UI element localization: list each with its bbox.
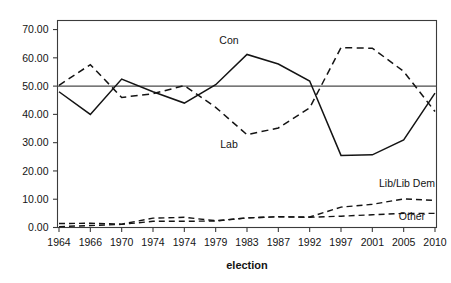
x-tick-label: 1974 (141, 236, 165, 248)
x-tick-label: 1997 (329, 236, 353, 248)
x-tick-label: 1979 (204, 236, 228, 248)
x-tick-label: 2005 (392, 236, 416, 248)
series-label-lab: Lab (220, 138, 238, 150)
y-tick-label: 10.00 (22, 193, 48, 205)
y-tick-label: 70.00 (22, 23, 48, 35)
x-tick-label: 1970 (110, 236, 134, 248)
x-tick-label: 1992 (298, 236, 322, 248)
x-tick-label: 2001 (361, 236, 385, 248)
x-tick-label: 2010 (423, 236, 447, 248)
line-chart: 0.0010.0020.0030.0040.0050.0060.0070.00 … (0, 0, 451, 283)
x-tick-label: 1966 (79, 236, 103, 248)
x-tick-label: 1987 (267, 236, 291, 248)
y-tick-label: 0.00 (28, 221, 49, 233)
x-tick-label: 1974 (173, 236, 197, 248)
series-label-con: Con (219, 34, 238, 46)
x-tick-label: 1983 (235, 236, 259, 248)
y-tick-label: 40.00 (22, 108, 48, 120)
series-label-other: Other (399, 210, 426, 222)
x-axis-title: election (226, 259, 268, 271)
y-tick-label: 50.00 (22, 80, 48, 92)
y-tick-label: 60.00 (22, 52, 48, 64)
y-tick-label: 20.00 (22, 165, 48, 177)
y-tick-label: 30.00 (22, 136, 48, 148)
series-label-lib-lib-dem: Lib/Lib Dem (379, 177, 435, 189)
x-tick-label: 1964 (47, 236, 71, 248)
chart-container: 0.0010.0020.0030.0040.0050.0060.0070.00 … (0, 0, 451, 283)
